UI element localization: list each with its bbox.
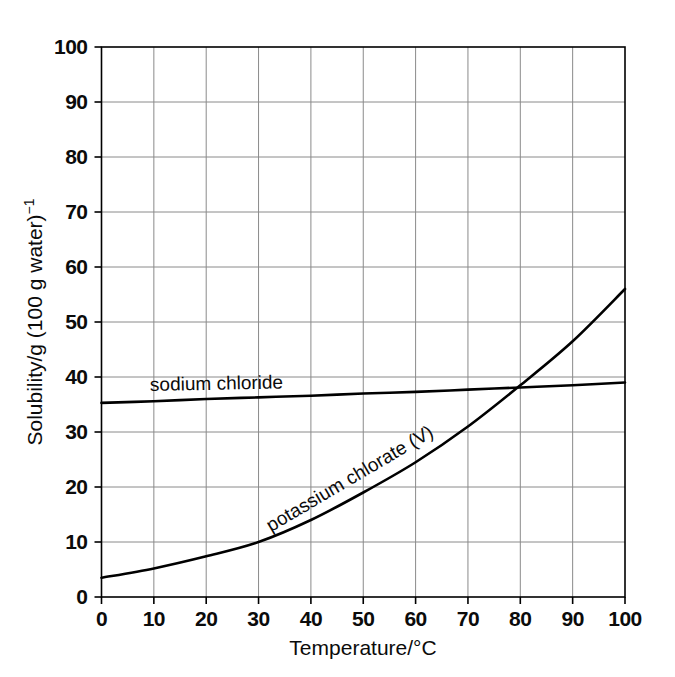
x-tick-label: 30	[247, 607, 269, 631]
y-tick-label: 0	[0, 585, 88, 609]
x-tick-label: 90	[561, 607, 583, 631]
x-tick-label: 100	[608, 607, 642, 631]
y-axis-title-exponent: −1	[21, 198, 37, 214]
solubility-chart-figure: 0102030405060708090100 01020304050607080…	[0, 0, 675, 677]
y-tick-label: 90	[0, 90, 88, 114]
x-tick-label: 20	[195, 607, 217, 631]
y-tick-label: 20	[0, 475, 88, 499]
y-axis-title: Solubility/g (100 g water)−1	[21, 198, 47, 445]
x-tick-label: 40	[300, 607, 322, 631]
x-tick-label: 80	[509, 607, 531, 631]
series-label-sodium-chloride: sodium chloride	[150, 371, 283, 396]
y-tick-label: 80	[0, 145, 88, 169]
x-tick-label: 70	[457, 607, 479, 631]
x-axis-title: Temperature/°C	[289, 636, 436, 660]
gridlines	[102, 47, 626, 597]
chart-plot-area	[0, 0, 675, 677]
y-tick-label: 10	[0, 530, 88, 554]
x-tick-label: 10	[143, 607, 165, 631]
y-axis-title-text: Solubility/g (100 g water)	[23, 214, 46, 445]
y-tick-label: 100	[0, 35, 88, 59]
x-tick-label: 0	[96, 607, 107, 631]
x-tick-label: 50	[352, 607, 374, 631]
tick-marks	[95, 47, 626, 604]
x-tick-label: 60	[404, 607, 426, 631]
